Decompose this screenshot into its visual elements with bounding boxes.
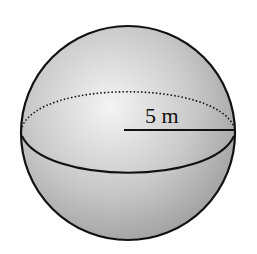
sphere-diagram: 5 m <box>0 0 257 254</box>
radius-label: 5 m <box>145 103 179 128</box>
sphere-body <box>21 26 235 240</box>
